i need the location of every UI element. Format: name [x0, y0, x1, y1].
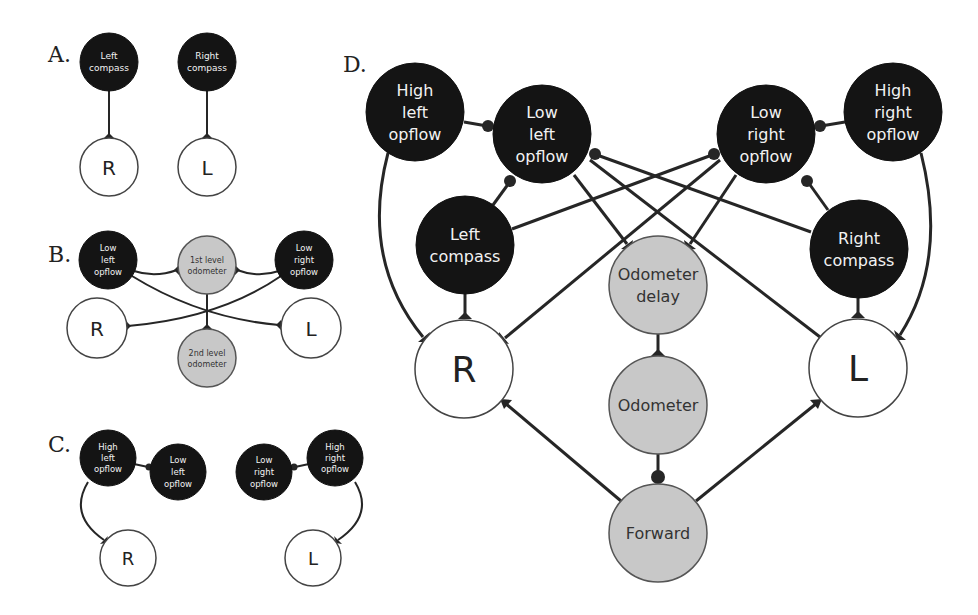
node-low-right-opflow: Low right opflow: [236, 444, 292, 500]
inhibitory-terminal-icon: [482, 120, 494, 132]
svg-text:opflow: opflow: [389, 125, 442, 144]
svg-text:Right: Right: [195, 51, 219, 61]
edge-low-right-opflow-to-1st-odometer: [237, 270, 279, 274]
node-low-left-opflow: Low left opflow: [493, 85, 591, 183]
svg-text:left: left: [101, 453, 115, 463]
svg-text:High: High: [325, 442, 345, 452]
svg-text:Odometer: Odometer: [618, 396, 699, 415]
svg-text:left: left: [402, 103, 428, 122]
node-high-right-opflow: High right opflow: [844, 63, 942, 161]
svg-text:Odometer: Odometer: [618, 265, 699, 284]
edge-high-left-opflow-to-r: [81, 482, 104, 540]
svg-text:Left: Left: [450, 225, 480, 244]
panel-a: A. Left compass Right compass R L: [47, 33, 236, 196]
svg-text:right: right: [874, 103, 912, 122]
node-left-compass: Left compass: [80, 33, 138, 91]
svg-text:opflow: opflow: [250, 479, 278, 489]
svg-text:compass: compass: [824, 251, 895, 270]
node-r: R: [67, 298, 127, 358]
svg-text:Low: Low: [296, 243, 313, 253]
panel-b: B. Low left opflow 1st level odometer Lo…: [48, 231, 341, 387]
svg-text:L: L: [848, 348, 868, 389]
svg-text:Low: Low: [100, 243, 117, 253]
node-forward: Forward: [609, 484, 707, 582]
edge-right-compass-to-low-right: [808, 182, 828, 210]
node-high-right-opflow: High right opflow: [307, 430, 363, 486]
panel-b-label: B.: [48, 242, 71, 267]
network-diagram: A. Left compass Right compass R L B.: [0, 0, 978, 615]
panel-d: D.: [343, 52, 942, 582]
edge-high-right-opflow-to-l: [338, 482, 362, 540]
excitatory-terminal-icon: [851, 311, 865, 318]
svg-text:L: L: [305, 317, 317, 341]
node-low-left-opflow: Low left opflow: [79, 231, 137, 289]
svg-text:Low: Low: [750, 103, 782, 122]
svg-text:odometer: odometer: [188, 360, 228, 369]
node-l: L: [281, 298, 341, 358]
svg-text:opflow: opflow: [321, 464, 349, 474]
svg-text:Forward: Forward: [626, 524, 690, 543]
node-left-compass: Left compass: [416, 196, 514, 294]
svg-text:opflow: opflow: [290, 267, 318, 277]
svg-text:right: right: [747, 125, 785, 144]
inhibitory-terminal-icon: [651, 470, 665, 484]
svg-text:opflow: opflow: [164, 479, 192, 489]
svg-text:opflow: opflow: [867, 125, 920, 144]
svg-text:odometer: odometer: [188, 267, 228, 276]
panel-c-label: C.: [48, 432, 71, 457]
panel-c: C. High left opflow Low left opflow Low …: [48, 430, 363, 586]
svg-text:R: R: [122, 548, 135, 569]
svg-text:L: L: [308, 548, 318, 569]
edge-low-left-to-odometer-delay: [574, 175, 627, 244]
svg-text:High: High: [397, 81, 434, 100]
svg-text:Low: Low: [526, 103, 558, 122]
node-1st-level-odometer: 1st level odometer: [178, 236, 236, 294]
svg-text:High: High: [98, 442, 118, 452]
svg-text:right: right: [325, 453, 346, 463]
svg-text:R: R: [102, 156, 116, 180]
svg-text:Right: Right: [838, 229, 880, 248]
svg-text:compass: compass: [187, 63, 227, 73]
inhibitory-terminal-icon: [708, 148, 720, 160]
excitatory-terminal-icon: [458, 312, 472, 319]
node-r: R: [100, 530, 156, 586]
node-r: R: [415, 320, 513, 418]
node-l: L: [285, 530, 341, 586]
panel-d-label: D.: [343, 52, 367, 77]
node-l: L: [178, 138, 236, 196]
svg-text:opflow: opflow: [516, 147, 569, 166]
excitatory-terminal-icon: [276, 320, 281, 330]
edge-low-left-opflow-to-1st-odometer: [134, 270, 177, 274]
svg-text:High: High: [875, 81, 912, 100]
node-2nd-level-odometer: 2nd level odometer: [178, 329, 236, 387]
node-odometer-delay: Odometer delay: [609, 236, 707, 334]
node-odometer: Odometer: [609, 356, 707, 454]
svg-text:1st level: 1st level: [190, 256, 224, 265]
svg-text:compass: compass: [89, 63, 129, 73]
svg-text:L: L: [201, 156, 213, 180]
node-right-compass: Right compass: [810, 200, 908, 298]
node-high-left-opflow: High left opflow: [80, 430, 136, 486]
inhibitory-terminal-icon: [814, 120, 826, 132]
excitatory-terminal-icon: [651, 349, 665, 356]
node-r: R: [80, 138, 138, 196]
node-low-right-opflow: Low right opflow: [717, 85, 815, 183]
svg-text:left: left: [529, 125, 555, 144]
edge-forward-to-r: [505, 403, 621, 501]
svg-text:compass: compass: [430, 247, 501, 266]
svg-text:2nd level: 2nd level: [189, 349, 226, 358]
inhibitory-terminal-icon: [589, 148, 601, 160]
node-right-compass: Right compass: [178, 33, 236, 91]
svg-text:left: left: [101, 255, 115, 265]
svg-text:right: right: [254, 467, 275, 477]
svg-text:delay: delay: [636, 287, 680, 306]
svg-text:R: R: [451, 349, 476, 390]
svg-text:Low: Low: [170, 455, 187, 465]
panel-a-label: A.: [47, 42, 71, 67]
inhibitory-terminal-icon: [801, 175, 813, 187]
edge-forward-to-l: [696, 403, 817, 501]
node-l: L: [809, 319, 907, 417]
inhibitory-terminal-icon: [504, 175, 516, 187]
svg-text:opflow: opflow: [94, 267, 122, 277]
svg-text:R: R: [90, 317, 104, 341]
